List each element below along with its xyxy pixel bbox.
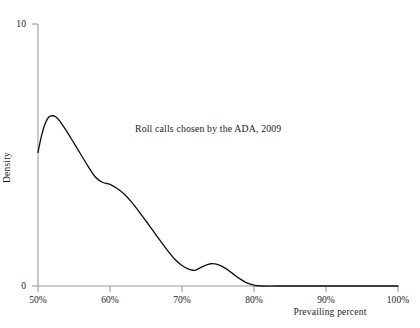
x-axis-title: Prevailing percent bbox=[294, 307, 367, 317]
y-tick-label-10: 10 bbox=[8, 19, 26, 29]
density-curve bbox=[38, 116, 398, 286]
y-axis-tick-marks bbox=[32, 24, 38, 286]
x-tick-label-70: 70% bbox=[173, 295, 191, 305]
x-tick-label-100: 100% bbox=[387, 295, 410, 305]
plot-canvas bbox=[0, 0, 420, 328]
y-axis-title: Density bbox=[2, 152, 12, 183]
density-chart-figure: 10 0 50% 60% 70% 80% 90% 100% Density Pr… bbox=[0, 0, 420, 328]
axes-group bbox=[32, 24, 398, 292]
x-tick-label-50: 50% bbox=[29, 295, 47, 305]
y-tick-label-0: 0 bbox=[8, 281, 26, 291]
x-axis-tick-marks bbox=[38, 286, 398, 292]
x-tick-label-60: 60% bbox=[101, 295, 119, 305]
chart-annotation-text: Roll calls chosen by the ADA, 2009 bbox=[135, 123, 281, 134]
x-tick-label-80: 80% bbox=[245, 295, 263, 305]
x-tick-label-90: 90% bbox=[317, 295, 335, 305]
